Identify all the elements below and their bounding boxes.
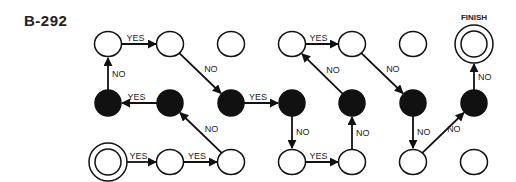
edge-label-no: NO bbox=[386, 64, 400, 74]
node-empty bbox=[95, 32, 122, 57]
edge-label-yes: YES bbox=[309, 33, 327, 43]
edge-label-no: NO bbox=[204, 64, 218, 74]
edge-label-yes: YES bbox=[129, 151, 147, 161]
node-empty bbox=[279, 32, 306, 57]
node-empty bbox=[157, 150, 184, 175]
node-filled bbox=[339, 90, 365, 116]
node-empty bbox=[461, 150, 488, 175]
edge-label-yes: YES bbox=[126, 33, 144, 43]
node-empty bbox=[218, 32, 245, 57]
node-empty bbox=[339, 150, 366, 175]
edge-label-no: NO bbox=[356, 128, 370, 138]
node-filled bbox=[157, 90, 183, 116]
edge-label-no: NO bbox=[478, 72, 492, 82]
node-filled bbox=[218, 90, 244, 116]
edge-label-yes: YES bbox=[188, 151, 206, 161]
node-start bbox=[89, 143, 127, 181]
edge-label-no: NO bbox=[447, 124, 461, 134]
edge-label-no: NO bbox=[326, 65, 340, 75]
node-empty bbox=[400, 32, 427, 57]
node-empty bbox=[157, 32, 184, 57]
node-empty bbox=[279, 150, 306, 175]
edge-label-yes: YES bbox=[127, 92, 145, 102]
edge-label-no: NO bbox=[112, 69, 126, 79]
node-filled bbox=[400, 90, 426, 116]
edge-label-yes: YES bbox=[309, 151, 327, 161]
edge-label-no: NO bbox=[296, 127, 310, 137]
node-empty bbox=[339, 32, 366, 57]
node-filled bbox=[95, 90, 121, 116]
edge-label-no: NO bbox=[205, 124, 219, 134]
node-empty bbox=[400, 150, 427, 175]
node-finish bbox=[455, 25, 493, 63]
node-empty bbox=[218, 150, 245, 175]
edge-label-no: NO bbox=[417, 127, 431, 137]
flow-diagram: FINISHYESYESNOYESNOYESNOYESNOYESNONOYESN… bbox=[0, 0, 516, 182]
finish-label: FINISH bbox=[461, 13, 487, 22]
node-filled bbox=[461, 90, 487, 116]
node-filled bbox=[279, 90, 305, 116]
edge-label-yes: YES bbox=[249, 92, 267, 102]
